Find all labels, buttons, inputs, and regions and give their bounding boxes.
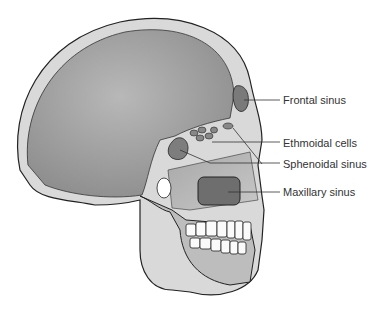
skull-sinus-diagram: Frontal sinus Ethmoidal cells Sphenoidal… [0,0,370,311]
skull-illustration [0,0,370,311]
ear-canal [157,178,171,198]
label-sphenoidal-sinus: Sphenoidal sinus [283,158,367,170]
label-maxillary-sinus: Maxillary sinus [283,186,355,198]
label-ethmoidal-cells: Ethmoidal cells [283,137,357,149]
maxillary-sinus [198,177,240,205]
label-frontal-sinus: Frontal sinus [283,94,346,106]
